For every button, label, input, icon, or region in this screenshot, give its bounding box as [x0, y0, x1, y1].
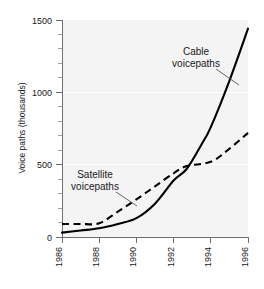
- x-axis: 1986 1988 1990 1992 1994 1996: [54, 237, 250, 267]
- x-tick-label-1994: 1994: [203, 247, 213, 267]
- y-axis: 1500 1000 500 0 Voice paths (thousands): [17, 16, 62, 243]
- x-tick-label-1990: 1990: [128, 247, 138, 267]
- satellite-annotation-line1: Satellite: [77, 169, 113, 180]
- x-tick-label-1988: 1988: [91, 247, 101, 267]
- x-tick-label-1992: 1992: [166, 247, 176, 267]
- y-tick-label-1500: 1500: [32, 16, 52, 26]
- y-tick-label-0: 0: [47, 233, 52, 243]
- y-axis-title: Voice paths (thousands): [17, 82, 27, 173]
- x-tick-label-1996: 1996: [240, 247, 250, 267]
- satellite-annotation-line2: voicepaths: [71, 181, 119, 192]
- y-tick-label-500: 500: [37, 160, 52, 170]
- y-tick-label-1000: 1000: [32, 88, 52, 98]
- line-chart: 1500 1000 500 0 Voice paths (thousands) …: [0, 0, 264, 289]
- x-tick-label-1986: 1986: [54, 247, 64, 267]
- cable-annotation-line2: voicepaths: [172, 58, 220, 69]
- chart-container: 1500 1000 500 0 Voice paths (thousands) …: [0, 0, 264, 289]
- cable-annotation-line1: Cable: [183, 46, 210, 57]
